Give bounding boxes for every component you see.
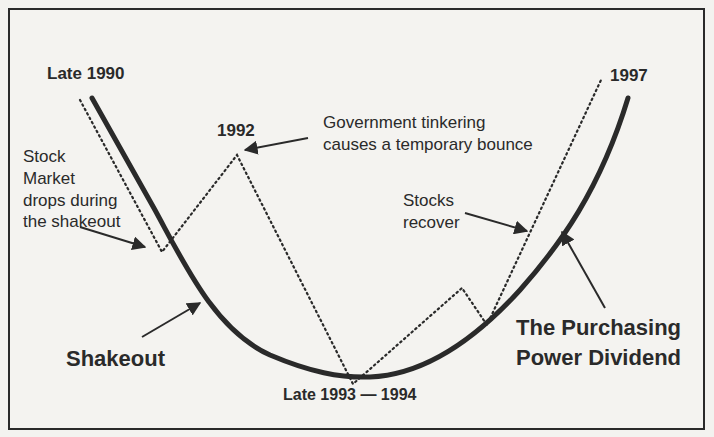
arrow-stocks-recover [465,213,527,231]
label-shakeout: Shakeout [66,346,165,371]
label-stock-line2: Market [23,169,75,189]
label-stock-line4: the shakeout [23,212,120,232]
label-stocks-recover-line1: Stocks [403,191,454,211]
label-stocks-recover-line2: recover [403,213,460,233]
label-1997: 1997 [610,66,648,86]
arrow-dividend [562,232,605,308]
label-stock-line1: Stock [23,147,66,167]
label-1992: 1992 [217,121,255,141]
label-government-line2: causes a temporary bounce [323,135,533,155]
label-late-1993-1994: Late 1993 — 1994 [283,386,416,404]
label-dividend-line1: The Purchasing [516,315,681,340]
label-dividend-line2: Power Dividend [516,345,681,370]
label-stock-line3: drops during [23,191,118,211]
arrow-shakeout [142,303,200,337]
label-government-line1: Government tinkering [323,113,486,133]
label-late-1990: Late 1990 [47,64,125,84]
